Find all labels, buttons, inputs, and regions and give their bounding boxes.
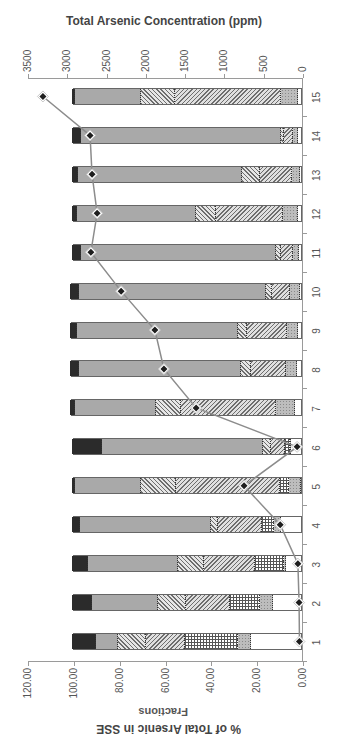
category-tick [303, 311, 307, 312]
chart-figure: % of Total Arsenic in SSE Fractions Tota… [0, 0, 339, 752]
right-axis-tick-label: 2500 [101, 32, 112, 72]
category-label: 8 [311, 355, 322, 385]
category-label: 9 [311, 316, 322, 346]
right-axis-tick-label: 2000 [140, 32, 151, 72]
right-axis-tick-label: 500 [258, 32, 269, 72]
left-axis-tick [166, 662, 167, 666]
left-axis-title: % of Total Arsenic in SSE [96, 722, 241, 736]
right-axis-tick [28, 74, 29, 78]
category-tick [303, 194, 307, 195]
category-tick [303, 622, 307, 623]
category-label: 3 [311, 550, 322, 580]
right-axis-tick [224, 74, 225, 78]
category-tick [303, 388, 307, 389]
category-tick [303, 466, 307, 467]
category-label: 14 [311, 121, 322, 151]
right-axis-tick [107, 74, 108, 78]
left-axis-tick-label: 80.00 [114, 668, 125, 712]
concentration-line [28, 77, 303, 661]
category-label: 1 [311, 628, 322, 658]
left-axis-tick [211, 662, 212, 666]
right-axis-tick [264, 74, 265, 78]
category-label: 7 [311, 394, 322, 424]
right-axis-tick [185, 74, 186, 78]
right-axis-tick [67, 74, 68, 78]
left-axis-tick [257, 662, 258, 666]
category-tick [303, 272, 307, 273]
category-label: 2 [311, 589, 322, 619]
left-axis-tick [28, 662, 29, 666]
right-axis-title: Total Arsenic Concentration (ppm) [66, 14, 262, 28]
left-axis-tick-label: 0.00 [297, 668, 308, 712]
left-axis-tick-label: 60.00 [160, 668, 171, 712]
category-tick [303, 155, 307, 156]
category-tick [303, 661, 307, 662]
plot-area [28, 78, 303, 662]
category-label: 15 [311, 82, 322, 112]
category-label: 11 [311, 238, 322, 268]
right-axis-tick-label: 3500 [22, 32, 33, 72]
category-tick [303, 544, 307, 545]
category-label: 10 [311, 277, 322, 307]
right-axis-tick-label: 1500 [179, 32, 190, 72]
category-tick [303, 350, 307, 351]
category-label: 6 [311, 433, 322, 463]
left-axis-tick [120, 662, 121, 666]
right-axis-tick-label: 0 [297, 32, 308, 72]
left-axis-tick [303, 662, 304, 666]
left-axis-tick-label: 100.00 [68, 668, 79, 712]
category-tick [303, 233, 307, 234]
category-label: 5 [311, 472, 322, 502]
right-axis-tick [303, 74, 304, 78]
left-axis-tick [74, 662, 75, 666]
category-tick [303, 427, 307, 428]
left-axis-tick-label: 120.00 [22, 668, 33, 712]
right-axis-tick [146, 74, 147, 78]
right-axis-tick-label: 1000 [218, 32, 229, 72]
category-label: 13 [311, 160, 322, 190]
category-label: 12 [311, 199, 322, 229]
left-axis-tick-label: 20.00 [251, 668, 262, 712]
left-axis-tick-label: 40.00 [205, 668, 216, 712]
category-label: 4 [311, 511, 322, 541]
category-tick [303, 583, 307, 584]
category-tick [303, 116, 307, 117]
right-axis-tick-label: 3000 [61, 32, 72, 72]
category-tick [303, 505, 307, 506]
